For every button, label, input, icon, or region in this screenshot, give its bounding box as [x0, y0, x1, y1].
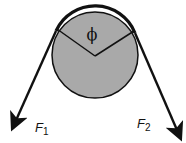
capstan-diagram: ϕ F1 F2	[0, 0, 186, 143]
angle-label-phi: ϕ	[87, 25, 98, 44]
force-label-f1-subscript: 1	[43, 126, 49, 137]
force-label-f1: F1	[35, 120, 49, 137]
force-label-f2: F2	[137, 116, 151, 133]
force-label-f2-subscript: 2	[145, 122, 151, 133]
force-arrow-f1	[13, 31, 56, 127]
